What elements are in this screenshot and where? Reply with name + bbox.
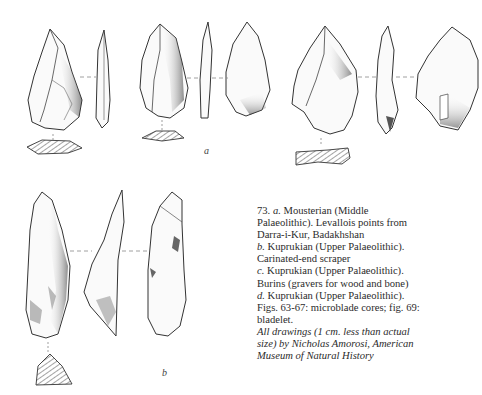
caption-line: c. Kuprukian (Upper Palaeolithic). [257,265,482,277]
figure-number: 73. [257,205,273,216]
artifact-a3-front [292,26,358,134]
artifact-a3-back [416,27,478,130]
caption-text: Kuprukian (Upper Palaeolithic). [264,265,403,276]
caption-text: Darra-i-Kur, Badakhshan [257,229,364,240]
caption-text: Carinated-end scraper [257,253,350,264]
caption-line: Palaeolithic). Levallois points from [257,217,482,229]
artifact-b-front [26,192,70,338]
credit-line: Museum of Natural History [257,350,482,362]
caption-text: Mousterian (Middle [281,205,369,216]
group-label-b: b [162,367,167,378]
figure-caption: 73. a. Mousterian (Middle Palaeolithic).… [257,205,482,362]
group-label-a: a [204,145,209,156]
caption-text: Figs. 63-67: microblade cores; fig. 69: [257,302,420,313]
caption-line: bladelet. [257,314,482,326]
artifact-a2-front [140,24,188,118]
cross-section-a1 [27,140,82,154]
caption-text: Kuprukian (Upper Palaeolithic). [265,290,404,301]
caption-letter: a. [273,205,281,216]
artifact-a1-front [28,29,82,130]
caption-text: Palaeolithic). Levallois points from [257,217,407,228]
artifact-b-back [148,192,186,336]
caption-line: Figs. 63-67: microblade cores; fig. 69: [257,302,482,314]
caption-line: Carinated-end scraper [257,253,482,265]
caption-line: b. Kuprukian (Upper Palaeolithic). [257,241,482,253]
cross-section-a3 [296,148,350,165]
cross-section-b [36,354,72,385]
caption-line: 73. a. Mousterian (Middle [257,205,482,217]
caption-line: Burins (gravers for wood and bone) [257,278,482,290]
artifact-b-side [84,190,124,336]
caption-letter: b. [257,241,265,252]
artifact-a3-side [376,26,398,134]
credit-line: size) by Nicholas Amorosi, American [257,338,482,350]
caption-text: Kuprukian (Upper Palaeolithic). [265,241,404,252]
artifact-a2-side [200,22,212,118]
artifact-a2-back [226,22,270,116]
caption-line: d. Kuprukian (Upper Palaeolithic). [257,290,482,302]
caption-letter: d. [257,290,265,301]
cross-section-a2 [142,131,184,141]
caption-text: Burins (gravers for wood and bone) [257,278,409,289]
caption-line: Darra-i-Kur, Badakhshan [257,229,482,241]
credit-line: All drawings (1 cm. less than actual [257,326,482,338]
caption-text: bladelet. [257,314,293,325]
artifact-a1-side [96,30,110,128]
